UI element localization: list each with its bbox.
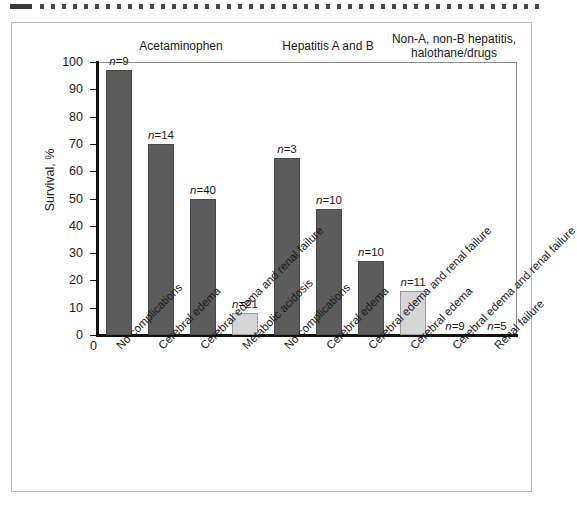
group-header: Non-A, non-B hepatitis,halothane/drugs	[374, 33, 534, 60]
y-axis-tick-label: 50	[49, 193, 83, 205]
bar-n-label: n=3	[277, 143, 297, 155]
bar-slot: n=9	[106, 62, 132, 335]
bar[interactable]	[106, 70, 132, 335]
bars-layer: n=9n=14n=40n=21n=3n=10n=10n=11n=9n=5	[98, 62, 517, 335]
y-axis-tick-label: 60	[49, 165, 83, 177]
y-axis-tick-label: 80	[49, 111, 83, 123]
y-axis-tick-label: 30	[49, 247, 83, 259]
top-rule-decoration	[0, 4, 546, 10]
y-axis-tick-label: 10	[49, 302, 83, 314]
y-axis-tick-label: 20	[49, 274, 83, 286]
figure-frame: Survival, % 0102030405060708090100 Aceta…	[11, 22, 532, 492]
y-axis-tick-label: 100	[49, 56, 83, 68]
y-axis-tick-label: 0	[49, 329, 83, 341]
x-origin-label: 0	[90, 339, 97, 353]
top-rule-dotted-line	[40, 4, 540, 9]
y-axis-tick-label: 40	[49, 220, 83, 232]
bar-n-label: n=10	[316, 194, 342, 206]
y-axis-tick-label: 70	[49, 138, 83, 150]
bar-n-label: n=40	[190, 184, 216, 196]
bar-n-label: n=14	[148, 129, 174, 141]
group-header: Acetaminophen	[101, 40, 261, 54]
top-rule-block	[10, 4, 32, 9]
y-axis-tick-label: 90	[49, 83, 83, 95]
bar-n-label: n=10	[358, 246, 384, 258]
bar-n-label: n=9	[109, 55, 129, 67]
